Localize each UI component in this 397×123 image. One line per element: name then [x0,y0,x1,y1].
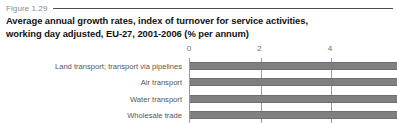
category-label: Water transport [0,94,182,103]
bar [190,78,397,86]
category-label: Land transport; transport via pipelines [0,62,182,71]
figure-container: Figure 1.29 Average annual growth rates,… [0,0,397,123]
figure-header: Figure 1.29 [6,2,393,14]
figure-header-rule [53,8,393,9]
x-tick-label-2: 2 [257,44,261,53]
x-tick-label-0: 0 [187,44,191,53]
y-axis-category-labels: Land transport; transport via pipelinesA… [0,58,186,123]
bars-panel [189,58,397,123]
figure-title-line-1: Average annual growth rates, index of tu… [6,14,392,27]
bar [190,95,397,103]
figure-title-line-2: working day adjusted, EU-27, 2001-2006 (… [6,27,392,40]
bar [190,111,397,119]
bar [190,62,397,70]
x-tick-label-4: 4 [328,44,332,53]
category-label: Wholesale trade [0,110,182,119]
figure-label: Figure 1.29 [6,4,48,13]
x-axis-tick-labels: 024 [0,42,397,58]
category-label: Air transport [0,78,182,87]
figure-title: Average annual growth rates, index of tu… [6,14,392,40]
chart-plot-area: 024 Land transport; transport via pipeli… [0,42,397,123]
